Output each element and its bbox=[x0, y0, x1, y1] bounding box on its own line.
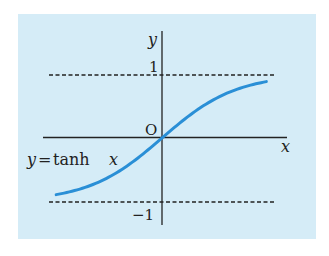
tanh-graph: y 1 O x −1 y = tanh x bbox=[0, 0, 329, 256]
x-axis-label: x bbox=[281, 137, 290, 156]
curve-label-var: x bbox=[109, 150, 118, 169]
y-axis-label: y bbox=[147, 30, 158, 49]
upper-asymptote-label: 1 bbox=[149, 58, 159, 76]
curve-label-lhs: y bbox=[26, 150, 37, 169]
curve-label-eq: = bbox=[38, 150, 51, 169]
curve-label-fn: tanh bbox=[53, 150, 90, 169]
lower-asymptote-label: −1 bbox=[132, 206, 154, 224]
origin-label: O bbox=[145, 121, 157, 139]
curve-label: y = tanh x bbox=[26, 150, 118, 169]
